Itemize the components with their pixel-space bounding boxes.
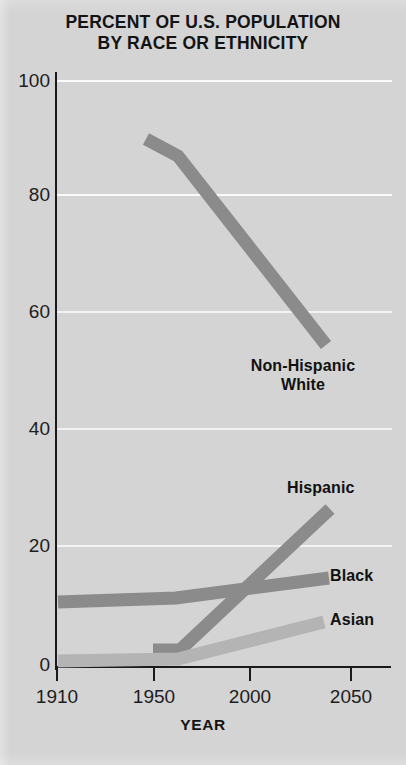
series-label-non-hispanic-white-line-1: Non-Hispanic [251, 357, 355, 374]
series-line-black [58, 578, 329, 602]
series-label-asian: Asian [330, 610, 374, 629]
series-label-black: Black [330, 566, 373, 585]
series-label-non-hispanic-white-line-2: White [281, 376, 325, 393]
series-label-non-hispanic-white: Non-Hispanic White [228, 356, 378, 394]
chart-figure: PERCENT OF U.S. POPULATION BY RACE OR ET… [0, 0, 406, 765]
series-line-non-hispanic-white [146, 139, 326, 345]
series-label-hispanic: Hispanic [287, 478, 355, 497]
